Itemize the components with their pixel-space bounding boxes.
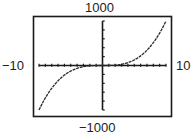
- graph-plot: [0, 0, 194, 135]
